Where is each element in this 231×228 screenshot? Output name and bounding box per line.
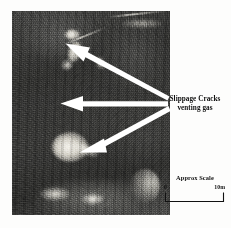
terrain-photograph xyxy=(12,11,170,215)
scale-start-label: 0 xyxy=(164,184,167,190)
figure-container: Slippage Cracks venting gas Approx Scale… xyxy=(0,0,231,228)
scale-bar-labels: 0 10m xyxy=(162,184,228,192)
scale-end-label: 10m xyxy=(214,184,225,190)
photo-halftone-overlay xyxy=(12,11,170,215)
scale-bar-icon xyxy=(162,192,228,204)
callout-line-2: venting gas xyxy=(160,104,230,113)
scale-bar-block: Approx Scale 0 10m xyxy=(162,174,228,204)
callout-label: Slippage Cracks venting gas xyxy=(160,95,230,112)
callout-line-1: Slippage Cracks xyxy=(160,95,230,104)
scale-bar-title: Approx Scale xyxy=(162,174,228,181)
